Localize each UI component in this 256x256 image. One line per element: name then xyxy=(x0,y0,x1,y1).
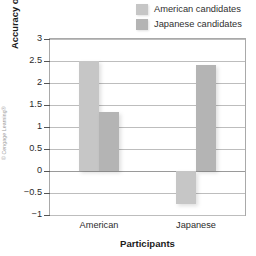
x-axis-tick-label: Japanese xyxy=(176,220,216,230)
y-axis-tick-label: 0.5 xyxy=(29,144,42,153)
bar xyxy=(99,112,119,171)
legend-swatch-american-candidates xyxy=(136,4,148,15)
publisher-credit: © Cengage Learning® xyxy=(0,74,9,160)
x-axis-title: Participants xyxy=(49,238,246,249)
y-axis-tick-label: 1.5 xyxy=(29,100,42,109)
y-axis-tick-label: 2.5 xyxy=(29,56,42,65)
y-axis-tick xyxy=(44,215,50,216)
zero-line xyxy=(50,171,245,172)
x-axis-tick-label: American xyxy=(80,220,119,230)
y-axis-tick xyxy=(44,127,50,128)
y-axis-tick-label: 2 xyxy=(37,78,42,87)
legend-label-japanese-candidates: Japanese candidates xyxy=(154,19,242,29)
y-axis-tick-label: 3 xyxy=(37,34,42,43)
legend-swatch-japanese-candidates xyxy=(136,19,148,30)
plot-area: 32.521.510.50−0.5−1AmericanJapanese xyxy=(49,38,246,216)
y-axis-tick-label: 1 xyxy=(37,122,42,131)
bar xyxy=(196,65,216,171)
y-axis-tick xyxy=(44,171,50,172)
bar xyxy=(176,171,196,204)
y-axis-tick xyxy=(44,105,50,106)
gridline xyxy=(50,39,245,40)
legend-label-american-candidates: American candidates xyxy=(154,4,241,14)
chart-legend: American candidates Japanese candidates xyxy=(136,2,256,32)
y-axis-tick-label: 0 xyxy=(37,166,42,175)
y-axis-tick xyxy=(44,83,50,84)
legend-item-japanese-candidates: Japanese candidates xyxy=(136,17,256,31)
y-axis-tick xyxy=(44,39,50,40)
y-axis-tick xyxy=(44,149,50,150)
y-axis-title: Accuracy of election predictions (t scor… xyxy=(8,0,21,49)
y-axis-tick xyxy=(44,193,50,194)
y-axis-tick-label: −0.5 xyxy=(24,188,42,197)
gridline xyxy=(50,193,245,194)
y-axis-title-prefix: Accuracy of election predictions ( xyxy=(9,0,20,49)
y-axis-tick-label: −1 xyxy=(32,210,42,219)
gridline xyxy=(50,215,245,216)
legend-item-american-candidates: American candidates xyxy=(136,2,256,16)
y-axis-tick xyxy=(44,61,50,62)
bar xyxy=(79,61,99,171)
